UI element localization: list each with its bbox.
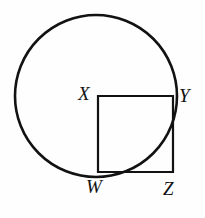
geometry-figure: X Y W Z: [0, 0, 205, 218]
vertex-label-z: Z: [163, 179, 174, 198]
square-shape: [98, 96, 173, 172]
geometry-canvas: [0, 0, 205, 218]
vertex-label-y: Y: [179, 86, 190, 105]
vertex-label-x: X: [78, 84, 90, 103]
vertex-label-w: W: [86, 177, 102, 196]
